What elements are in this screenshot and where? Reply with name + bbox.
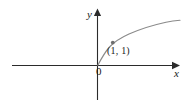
x-axis-label: x (174, 68, 179, 79)
y-axis-arrowhead-icon (94, 9, 101, 17)
origin-label: 0 (96, 66, 102, 77)
sqrt-curve (98, 20, 180, 65)
point-coordinate-label: (1, 1) (107, 46, 130, 56)
figure-container: y x 0 (1, 1) (0, 0, 194, 112)
point-marker-1-1 (111, 41, 115, 45)
y-axis-label: y (87, 9, 92, 20)
y-axis (94, 9, 101, 101)
coordinate-plot-svg (0, 0, 194, 112)
